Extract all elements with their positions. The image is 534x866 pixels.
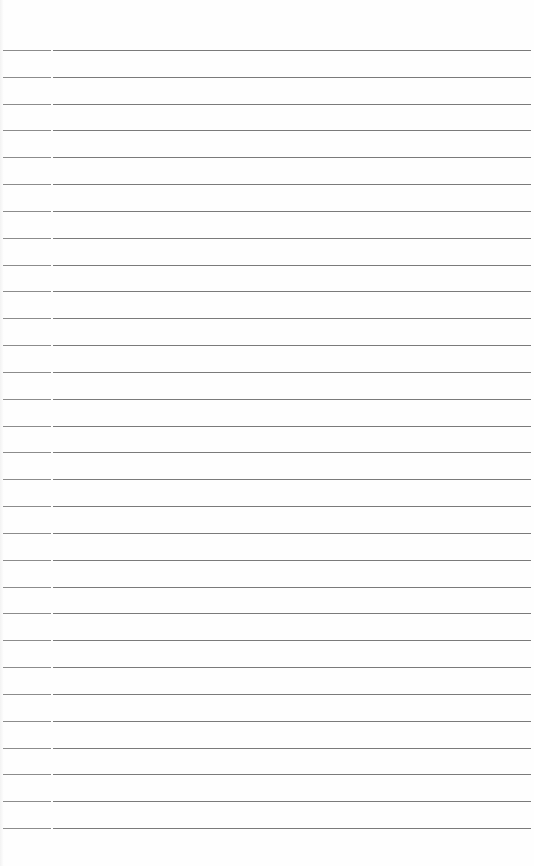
ruled-line-left-segment: [3, 694, 51, 695]
ruled-line-left-segment: [3, 184, 51, 185]
ruled-line: [3, 157, 531, 158]
ruled-line: [3, 399, 531, 400]
ruled-line: [3, 560, 531, 561]
ruled-line-left-segment: [3, 399, 51, 400]
ruled-line: [3, 291, 531, 292]
ruled-line: [3, 694, 531, 695]
ruled-line: [3, 184, 531, 185]
ruled-line-main-segment: [53, 211, 531, 212]
ruled-line: [3, 372, 531, 373]
ruled-line-left-segment: [3, 560, 51, 561]
ruled-line-left-segment: [3, 613, 51, 614]
ruled-line-left-segment: [3, 667, 51, 668]
ruled-line-main-segment: [53, 50, 531, 51]
ruled-line: [3, 50, 531, 51]
lined-paper-page: [0, 0, 534, 866]
ruled-line: [3, 774, 531, 775]
ruled-line: [3, 613, 531, 614]
ruled-line-main-segment: [53, 452, 531, 453]
ruled-line-main-segment: [53, 748, 531, 749]
ruled-line-main-segment: [53, 291, 531, 292]
ruled-line-main-segment: [53, 426, 531, 427]
ruled-line: [3, 721, 531, 722]
ruled-line-left-segment: [3, 130, 51, 131]
ruled-line-main-segment: [53, 506, 531, 507]
ruled-line-main-segment: [53, 104, 531, 105]
ruled-line-left-segment: [3, 104, 51, 105]
ruled-line-left-segment: [3, 506, 51, 507]
ruled-line-left-segment: [3, 801, 51, 802]
ruled-line-main-segment: [53, 238, 531, 239]
ruled-line-left-segment: [3, 77, 51, 78]
ruled-line-left-segment: [3, 640, 51, 641]
ruled-line-left-segment: [3, 748, 51, 749]
ruled-line-main-segment: [53, 587, 531, 588]
ruled-line-main-segment: [53, 613, 531, 614]
ruled-line-main-segment: [53, 77, 531, 78]
ruled-line: [3, 104, 531, 105]
ruled-line-main-segment: [53, 694, 531, 695]
ruled-line-left-segment: [3, 533, 51, 534]
ruled-line-main-segment: [53, 774, 531, 775]
ruled-line-main-segment: [53, 828, 531, 829]
ruled-line-left-segment: [3, 426, 51, 427]
ruled-line: [3, 318, 531, 319]
ruled-line-main-segment: [53, 560, 531, 561]
ruled-line-main-segment: [53, 184, 531, 185]
ruled-line: [3, 238, 531, 239]
ruled-line-left-segment: [3, 265, 51, 266]
ruled-line-left-segment: [3, 238, 51, 239]
ruled-line-left-segment: [3, 345, 51, 346]
ruled-line-left-segment: [3, 291, 51, 292]
ruled-line: [3, 748, 531, 749]
ruled-line-left-segment: [3, 318, 51, 319]
ruled-line: [3, 265, 531, 266]
ruled-line-left-segment: [3, 452, 51, 453]
ruled-line: [3, 452, 531, 453]
ruled-line-left-segment: [3, 774, 51, 775]
ruled-line-left-segment: [3, 479, 51, 480]
ruled-line-main-segment: [53, 265, 531, 266]
ruled-line-main-segment: [53, 318, 531, 319]
ruled-line: [3, 506, 531, 507]
ruled-line: [3, 587, 531, 588]
ruled-line: [3, 130, 531, 131]
ruled-line-left-segment: [3, 157, 51, 158]
ruled-line: [3, 77, 531, 78]
ruled-line-left-segment: [3, 50, 51, 51]
ruled-line-left-segment: [3, 721, 51, 722]
ruled-line-left-segment: [3, 587, 51, 588]
ruled-line: [3, 533, 531, 534]
ruled-line-left-segment: [3, 211, 51, 212]
ruled-line-main-segment: [53, 399, 531, 400]
ruled-line-main-segment: [53, 801, 531, 802]
ruled-line-left-segment: [3, 372, 51, 373]
ruled-line-main-segment: [53, 372, 531, 373]
ruled-line: [3, 640, 531, 641]
ruled-line-main-segment: [53, 157, 531, 158]
ruled-line: [3, 211, 531, 212]
ruled-line: [3, 667, 531, 668]
ruled-line-main-segment: [53, 533, 531, 534]
ruled-line-main-segment: [53, 721, 531, 722]
ruled-line-main-segment: [53, 345, 531, 346]
ruled-line: [3, 345, 531, 346]
ruled-line: [3, 801, 531, 802]
ruled-line-main-segment: [53, 667, 531, 668]
ruled-line: [3, 828, 531, 829]
ruled-line-main-segment: [53, 479, 531, 480]
ruled-line-main-segment: [53, 130, 531, 131]
ruled-line-main-segment: [53, 640, 531, 641]
ruled-line: [3, 426, 531, 427]
ruled-line: [3, 479, 531, 480]
ruled-line-left-segment: [3, 828, 51, 829]
